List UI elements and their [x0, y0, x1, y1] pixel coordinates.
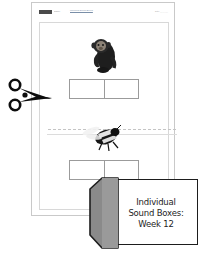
monkey-photo	[87, 27, 121, 73]
bee-photo	[82, 122, 126, 152]
sound-box-row-1[interactable]	[69, 79, 139, 99]
header-title: Individual Sound Boxes	[70, 9, 93, 11]
header-date-field: Date _______	[155, 10, 168, 12]
banner-line-3: Week 12	[118, 219, 194, 230]
sound-box-cell[interactable]	[105, 80, 139, 98]
scissors-icon	[8, 77, 54, 113]
folder-tab-icon	[88, 177, 120, 249]
banner-line-1: Individual	[118, 197, 194, 208]
banner-text: Individual Sound Boxes: Week 12	[118, 197, 194, 230]
sound-box-cell[interactable]	[70, 80, 105, 98]
sound-box-section-1	[40, 23, 168, 115]
publisher-logo-icon	[39, 10, 52, 14]
banner-line-2: Sound Boxes:	[118, 208, 194, 219]
label-banner: Individual Sound Boxes: Week 12	[88, 177, 198, 249]
worksheet-header: Name _______________________ Individual …	[39, 9, 168, 19]
